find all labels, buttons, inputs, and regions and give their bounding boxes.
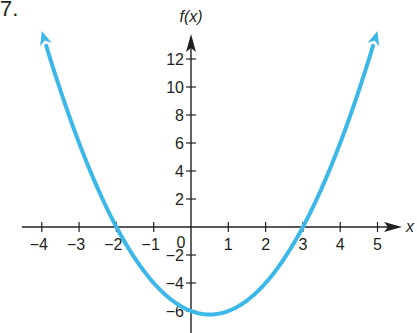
y-tick-label: 12 — [166, 51, 184, 68]
parabola-curve — [40, 31, 379, 315]
x-tick-label: 5 — [373, 236, 382, 253]
parabola-line — [46, 46, 373, 315]
x-tick-label: 4 — [336, 236, 345, 253]
x-tick-label: 3 — [298, 236, 307, 253]
x-tick-label: −1 — [142, 236, 160, 253]
y-tick-label: 2 — [175, 191, 184, 208]
x-tick-label: −4 — [30, 236, 48, 253]
y-tick-label: −4 — [166, 275, 184, 292]
origin-label: 0 — [177, 234, 186, 251]
curve-arrow-icon — [368, 31, 379, 46]
y-axis-label: f(x) — [179, 8, 202, 25]
curve-arrow-icon — [40, 31, 51, 46]
x-tick-label: 1 — [224, 236, 233, 253]
x-tick-label: −2 — [104, 236, 122, 253]
axes: xf(x) — [22, 8, 415, 333]
axis-ticks: −4−3−2−112345−6−4−2246810120 — [30, 51, 382, 320]
y-tick-label: 10 — [166, 79, 184, 96]
x-tick-label: −3 — [67, 236, 85, 253]
x-axis-label: x — [405, 218, 415, 235]
y-tick-label: 8 — [175, 107, 184, 124]
x-tick-label: 2 — [261, 236, 270, 253]
y-tick-label: 4 — [175, 163, 184, 180]
parabola-graph: xf(x) −4−3−2−112345−6−4−2246810120 — [0, 0, 417, 333]
y-tick-label: 6 — [175, 135, 184, 152]
